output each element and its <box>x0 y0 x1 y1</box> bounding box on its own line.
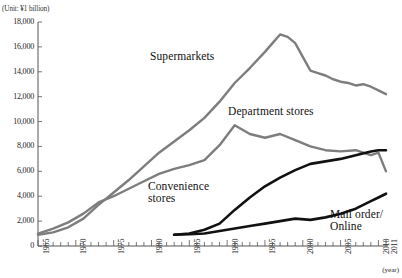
series-label-convenience-line2: stores <box>148 192 228 204</box>
plot-area <box>0 0 402 278</box>
series-label-convenience-stores: Convenience stores <box>148 180 228 205</box>
series-label-convenience-line1: Convenience <box>148 180 228 192</box>
series-label-mail-order-online: Mail order/ Online <box>330 208 383 233</box>
retail-sales-line-chart: (Unit: ¥1 billion) 18,00016,00014,00012,… <box>0 0 402 278</box>
series-label-mail-line1: Mail order/ <box>330 208 383 220</box>
series-label-mail-line2: Online <box>330 220 383 232</box>
series-label-supermarkets: Supermarkets <box>150 50 214 62</box>
series-label-department-stores: Department stores <box>228 105 314 117</box>
